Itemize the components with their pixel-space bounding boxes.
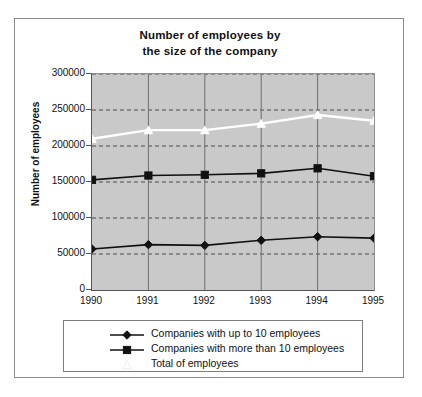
legend-marker-square-icon [108, 342, 146, 354]
data-point-marker-square [92, 176, 96, 183]
series-line [92, 115, 374, 139]
data-point-marker-square [370, 173, 374, 180]
series-1 [92, 233, 374, 254]
legend-item[interactable]: Total of employees [64, 356, 362, 370]
series-line [92, 237, 374, 249]
data-point-marker-diamond [257, 236, 265, 244]
data-point-marker-square [201, 171, 208, 178]
series-3 [92, 111, 374, 143]
y-axis-tick-label: 100000 [21, 212, 85, 222]
chart-frame: Number of employees by the size of the c… [14, 18, 404, 378]
y-axis-tick-label: 0 [21, 284, 85, 294]
chart-title: Number of employees by the size of the c… [15, 27, 405, 59]
y-axis-tick-label: 300000 [21, 68, 85, 78]
legend-marker-triangle-icon [108, 357, 146, 369]
legend-item[interactable]: Companies with more than 10 employees [64, 341, 362, 355]
y-axis-tick-label: 150000 [21, 176, 85, 186]
data-point-marker-square [145, 172, 152, 179]
data-point-marker-diamond [123, 331, 131, 339]
legend-label: Total of employees [151, 357, 239, 369]
y-axis-title: Number of employees [29, 79, 43, 229]
legend-marker-diamond-icon [108, 327, 146, 339]
y-axis-tick-label: 250000 [21, 104, 85, 114]
data-point-marker-triangle [123, 361, 131, 369]
plot-area [91, 73, 375, 291]
chart-title-line-1: Number of employees by [15, 27, 405, 43]
x-axis-tick-label: 1993 [235, 295, 285, 306]
data-point-marker-square [314, 165, 321, 172]
x-axis-tick-label: 1991 [122, 295, 172, 306]
legend-label: Companies with more than 10 employees [151, 342, 344, 354]
x-axis-tick-label: 1992 [179, 295, 229, 306]
x-axis-tick-label: 1994 [292, 295, 342, 306]
series-2 [92, 165, 374, 184]
chart-legend: Companies with up to 10 employeesCompani… [63, 320, 363, 372]
data-point-marker-diamond [370, 234, 374, 242]
legend-item[interactable]: Companies with up to 10 employees [64, 326, 362, 340]
x-axis-tick-label: 1995 [348, 295, 398, 306]
data-point-marker-diamond [313, 233, 321, 241]
data-point-marker-diamond [92, 245, 96, 253]
data-point-marker-diamond [201, 241, 209, 249]
series-line [92, 168, 374, 180]
chart-title-line-2: the size of the company [15, 43, 405, 59]
legend-label: Companies with up to 10 employees [151, 327, 320, 339]
data-point-marker-square [258, 170, 265, 177]
plot-svg [92, 74, 374, 290]
y-axis-tick-label: 200000 [21, 140, 85, 150]
x-axis-tick-label: 1990 [66, 295, 116, 306]
y-axis-tick-label: 50000 [21, 248, 85, 258]
data-point-marker-diamond [144, 240, 152, 248]
data-point-marker-square [123, 346, 130, 353]
